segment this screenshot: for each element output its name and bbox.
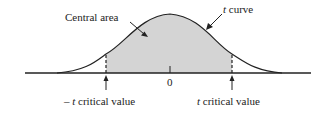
- right-critical-arrow-icon: [230, 75, 235, 90]
- t-distribution-diagram: Central area t curve 0 – t critical valu…: [0, 0, 325, 120]
- pos-critical-value-label: t critical value: [197, 95, 260, 107]
- left-critical-arrow-icon: [104, 75, 109, 90]
- t-curve-arrow-icon: [206, 14, 222, 30]
- central-area-label: Central area: [65, 11, 119, 23]
- zero-label: 0: [167, 76, 173, 88]
- neg-critical-value-label: – t critical value: [63, 95, 135, 107]
- t-curve-label: t curve: [223, 3, 253, 15]
